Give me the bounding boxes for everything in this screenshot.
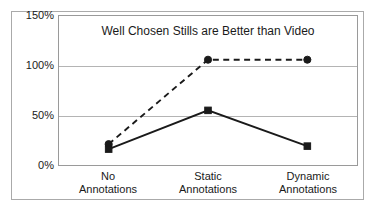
chart-title: Well Chosen Stills are Better than Video: [58, 24, 358, 38]
x-tick-label-0-line1: No: [101, 170, 115, 182]
x-tick-label-0: No Annotations: [58, 169, 158, 201]
data-point-video-1: [205, 107, 212, 114]
y-axis-tick-labels: 150% 100% 50% 0%: [12, 12, 56, 201]
chart-frame: 150% 100% 50% 0% Well Chosen Stills are …: [11, 11, 364, 200]
chart-root: 150% 100% 50% 0% Well Chosen Stills are …: [0, 0, 374, 213]
x-tick-label-1-line1: Static: [194, 170, 222, 182]
x-tick-label-2-line1: Dynamic: [287, 170, 330, 182]
series-line-video: [109, 110, 308, 149]
x-axis-tick-labels: No Annotations Static Annotations Dynami…: [58, 169, 358, 201]
x-tick-label-0-line2: Annotations: [58, 183, 158, 196]
x-tick-label-1: Static Annotations: [158, 169, 258, 201]
x-tick-label-1-line2: Annotations: [158, 183, 258, 196]
series-layer: [59, 16, 357, 165]
data-point-stills-2: [304, 56, 311, 63]
y-tick-label-100: 100%: [12, 60, 54, 71]
data-point-video-2: [304, 143, 311, 150]
y-tick-label-50: 50%: [12, 110, 54, 121]
y-tick-label-150: 150%: [12, 10, 54, 21]
data-point-video-0: [105, 146, 112, 153]
series-line-stills: [109, 60, 308, 144]
y-tick-label-0: 0%: [12, 160, 54, 171]
x-tick-label-2: Dynamic Annotations: [258, 169, 358, 201]
x-tick-label-2-line2: Annotations: [258, 183, 358, 196]
data-point-stills-1: [204, 56, 211, 63]
